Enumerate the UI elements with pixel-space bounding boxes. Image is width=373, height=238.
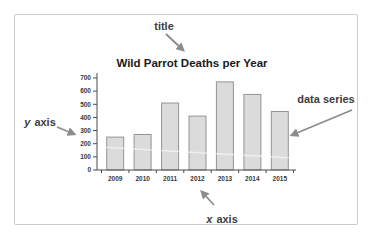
x-axis-label-text: axis [213, 213, 237, 225]
y-axis-italic-letter: y [24, 116, 30, 128]
data-series-annotation-label: data series [297, 93, 354, 105]
y-axis-label-text: axis [31, 116, 55, 128]
data-series-arrow-icon [292, 110, 352, 135]
title-arrow-icon [166, 34, 183, 50]
y-axis-annotation-label: y axis [24, 116, 56, 128]
x-axis-arrow-icon [202, 192, 214, 205]
x-axis-italic-letter: x [206, 213, 212, 225]
y-axis-arrow-icon [57, 127, 74, 134]
figure-canvas: 0100200300400500600700200920102011201220… [0, 0, 373, 238]
x-axis-annotation-label: x axis [206, 213, 238, 225]
annotation-arrows [0, 0, 373, 238]
title-annotation-label: title [154, 20, 174, 32]
